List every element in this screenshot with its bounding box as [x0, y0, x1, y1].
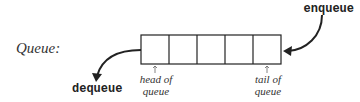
tail-of-queue-label: tail of queue	[248, 73, 288, 97]
tail-label-line1: tail of	[248, 73, 288, 85]
queue-cells	[141, 35, 281, 64]
head-label-line2: queue	[136, 85, 176, 97]
dequeue-label: dequeue	[72, 82, 122, 96]
enqueue-arrow-icon	[288, 15, 322, 51]
queue-title: Queue:	[16, 40, 60, 57]
dequeue-arrow-icon	[97, 50, 141, 76]
queue-box	[141, 35, 281, 64]
tail-label-line2: queue	[248, 85, 288, 97]
enqueue-arrowhead-icon	[283, 46, 292, 56]
head-of-queue-label: head of queue	[136, 73, 176, 97]
head-label-line1: head of	[136, 73, 176, 85]
dequeue-arrowhead-icon	[92, 73, 102, 82]
enqueue-text: enqueue	[304, 2, 354, 16]
